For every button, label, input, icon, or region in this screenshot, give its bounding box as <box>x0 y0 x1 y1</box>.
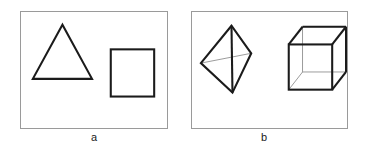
cube-edge-bottom-right-connector <box>332 72 346 90</box>
triangle-shape <box>33 25 92 79</box>
panel-b-caption: b <box>244 130 284 144</box>
panel-a-caption: a <box>74 130 114 144</box>
tetrahedron-center-edge <box>231 26 232 93</box>
panel-a-graphic <box>21 12 167 128</box>
cube-shape <box>289 27 346 90</box>
panel-b <box>191 11 348 129</box>
square-shape <box>111 49 154 96</box>
figure-container: a <box>0 0 366 153</box>
cube-front-face <box>289 44 332 89</box>
panel-b-graphic <box>192 12 347 128</box>
cube-hidden-connector-bottom-left <box>289 72 303 90</box>
tetrahedron-shape <box>201 26 251 93</box>
cube-edge-top-left-connector <box>289 27 303 45</box>
tetrahedron-outline <box>201 26 251 93</box>
cube-edge-top-right-connector <box>332 27 346 45</box>
panel-a <box>20 11 168 129</box>
